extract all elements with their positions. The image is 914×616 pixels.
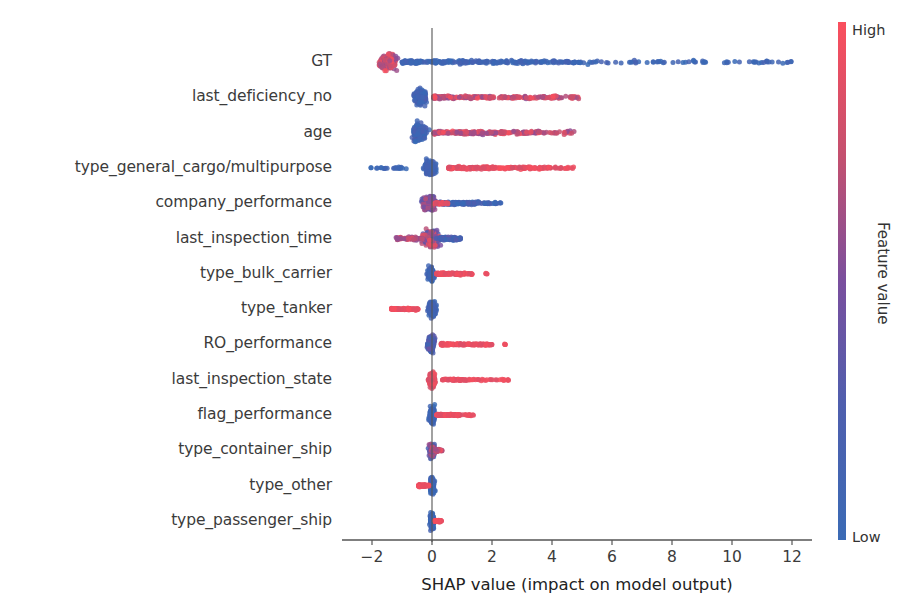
shap-point xyxy=(662,60,667,65)
shap-point xyxy=(553,165,558,170)
x-tick-label: 2 xyxy=(472,550,512,566)
shap-point xyxy=(628,60,633,65)
shap-point xyxy=(394,235,399,240)
shap-point xyxy=(570,95,575,100)
feature-label: last_inspection_time xyxy=(176,231,332,247)
shap-point xyxy=(517,165,522,170)
shap-point xyxy=(438,243,443,248)
shap-point xyxy=(385,166,390,171)
shap-point xyxy=(391,307,396,312)
shap-point xyxy=(439,341,444,346)
shap-point xyxy=(751,59,756,64)
shap-point xyxy=(510,165,515,170)
shap-point xyxy=(457,95,462,100)
shap-point xyxy=(691,58,696,63)
shap-point xyxy=(427,238,432,243)
shap-point xyxy=(425,164,430,169)
shap-point xyxy=(447,237,452,242)
shap-point xyxy=(433,447,438,452)
shap-point xyxy=(429,378,434,383)
shap-point xyxy=(540,59,545,64)
shap-point xyxy=(726,60,731,65)
shap-point xyxy=(550,94,555,99)
shap-point xyxy=(540,95,545,100)
shap-point xyxy=(441,59,446,64)
shap-point xyxy=(481,377,486,382)
shap-point xyxy=(477,60,482,65)
shap-point xyxy=(493,200,498,205)
shap-point xyxy=(553,60,558,65)
shap-point xyxy=(415,131,420,136)
shap-point xyxy=(569,131,574,136)
feature-label: GT xyxy=(311,54,332,70)
feature-label: type_passenger_ship xyxy=(171,513,332,529)
shap-point xyxy=(587,60,592,65)
shap-point xyxy=(422,90,427,95)
shap-point xyxy=(412,98,417,103)
shap-point xyxy=(458,378,463,383)
shap-point xyxy=(422,60,427,65)
shap-point xyxy=(463,412,468,417)
colorbar-low-label: Low xyxy=(852,530,881,545)
shap-point xyxy=(500,377,505,382)
shap-point xyxy=(785,60,790,65)
shap-point xyxy=(434,60,439,65)
shap-point xyxy=(443,271,448,276)
shap-point xyxy=(470,60,475,65)
x-tick-label: 12 xyxy=(772,550,812,566)
shap-point xyxy=(655,59,660,64)
shap-point xyxy=(511,95,516,100)
shap-point xyxy=(498,165,503,170)
shap-point xyxy=(472,342,477,347)
feature-label: type_general_cargo/multipurpose xyxy=(75,160,332,176)
shap-point xyxy=(529,58,534,63)
shap-point xyxy=(483,343,488,348)
shap-point xyxy=(409,60,414,65)
shap-point xyxy=(457,60,462,65)
shap-point xyxy=(502,342,507,347)
shap-point xyxy=(460,342,465,347)
shap-point xyxy=(517,59,522,64)
feature-label: type_container_ship xyxy=(178,442,332,458)
shap-point xyxy=(432,131,437,136)
shap-point xyxy=(448,95,453,100)
shap-point xyxy=(476,377,481,382)
shap-point xyxy=(436,412,441,417)
shap-point xyxy=(387,58,392,63)
shap-point xyxy=(475,96,480,101)
shap-point xyxy=(506,377,511,382)
shap-point xyxy=(487,59,492,64)
shap-point xyxy=(413,60,418,65)
shap-point xyxy=(676,59,681,64)
axis-layer xyxy=(342,28,812,545)
shap-point xyxy=(494,130,499,135)
shap-point xyxy=(524,130,529,135)
shap-point xyxy=(467,95,472,100)
shap-point xyxy=(406,306,411,311)
x-tick-label: 4 xyxy=(532,550,572,566)
shap-point xyxy=(593,60,598,65)
shap-point xyxy=(406,236,411,241)
shap-point xyxy=(420,236,425,241)
x-tick-label: 10 xyxy=(712,550,752,566)
shap-point xyxy=(454,237,459,242)
shap-point xyxy=(463,61,468,66)
colorbar-title: Feature value xyxy=(875,222,890,324)
shap-point xyxy=(469,377,474,382)
shap-point xyxy=(434,519,439,524)
shap-point xyxy=(432,402,437,407)
shap-point xyxy=(484,271,489,276)
shap-point xyxy=(447,165,452,170)
shap-point xyxy=(415,94,420,99)
shap-point xyxy=(374,166,379,171)
shap-point xyxy=(524,95,529,100)
shap-point xyxy=(604,60,609,65)
shap-point xyxy=(651,60,656,65)
shap-point xyxy=(431,312,436,317)
shap-point xyxy=(392,63,397,68)
shap-point xyxy=(472,130,477,135)
shap-point xyxy=(482,201,487,206)
shap-point xyxy=(645,60,650,65)
shap-point xyxy=(465,342,470,347)
shap-point xyxy=(776,60,781,65)
